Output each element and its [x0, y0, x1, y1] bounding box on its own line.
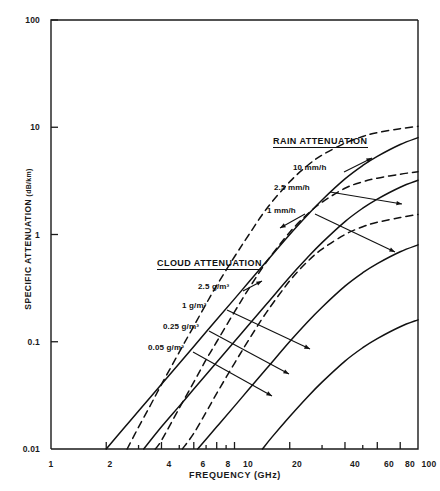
axis-frame: [51, 20, 418, 449]
xtick-label-100: 100: [422, 459, 437, 469]
cloud-label-2.5gm3: 2.5 g/m³: [198, 282, 229, 291]
curve-2-5-g-m-: [106, 138, 418, 449]
cloud-label-0.05gm3: 0.05 g/m³: [148, 343, 184, 352]
xtick-label-2: 2: [108, 459, 113, 469]
chart-plot-area: [0, 0, 440, 491]
curve-0-05-g-m-: [262, 320, 418, 449]
xtick-label-80: 80: [405, 459, 415, 469]
y-axis-unit-text: (dB/km): [25, 168, 32, 196]
axis-ticks: [51, 20, 400, 449]
xtick-label-20: 20: [292, 459, 302, 469]
curve-1-mm-h: [182, 214, 418, 449]
xtick-label-1: 1: [49, 459, 54, 469]
x-axis-title: FREQUENCY (GHz): [189, 470, 281, 480]
ytick-label-0.01: 0.01: [6, 444, 40, 454]
xtick-label-4: 4: [167, 459, 172, 469]
curve-1-g-m-: [144, 180, 418, 449]
y-axis-title: SPECIFIC ATTENUATION (dB/km): [23, 129, 33, 349]
cloud-attenuation-heading: CLOUD ATTENUATION: [157, 258, 262, 270]
ytick-label-100: 100: [10, 15, 40, 25]
xtick-label-40: 40: [350, 459, 360, 469]
rain-label-10mmh: 10 mm/h: [293, 163, 327, 172]
y-axis-title-text: SPECIFIC ATTENUATION: [23, 199, 33, 310]
callout-leader-lines: [193, 158, 402, 396]
rain-attenuation-heading: RAIN ATTENUATION: [273, 136, 368, 148]
curve-10-mm-h: [127, 126, 418, 449]
y-axis-title-unit: [25, 197, 32, 199]
rain-label-1mmh: 1 mm/h: [267, 206, 296, 215]
cloud-label-0.25gm3: 0.25 g/m³: [163, 322, 199, 331]
attenuation-chart-figure: 100 10 1 0.1 0.01 1 2 4 6 8 10 20 40 60 …: [0, 0, 440, 491]
cloud-label-1gm3: 1 g/m³: [182, 301, 206, 310]
xtick-label-8: 8: [226, 459, 231, 469]
xtick-label-10: 10: [243, 459, 253, 469]
rain-label-2.5mmh: 2.5 mm/h: [274, 183, 310, 192]
xtick-label-60: 60: [384, 459, 394, 469]
data-curves: [106, 126, 418, 449]
xtick-label-6: 6: [201, 459, 206, 469]
